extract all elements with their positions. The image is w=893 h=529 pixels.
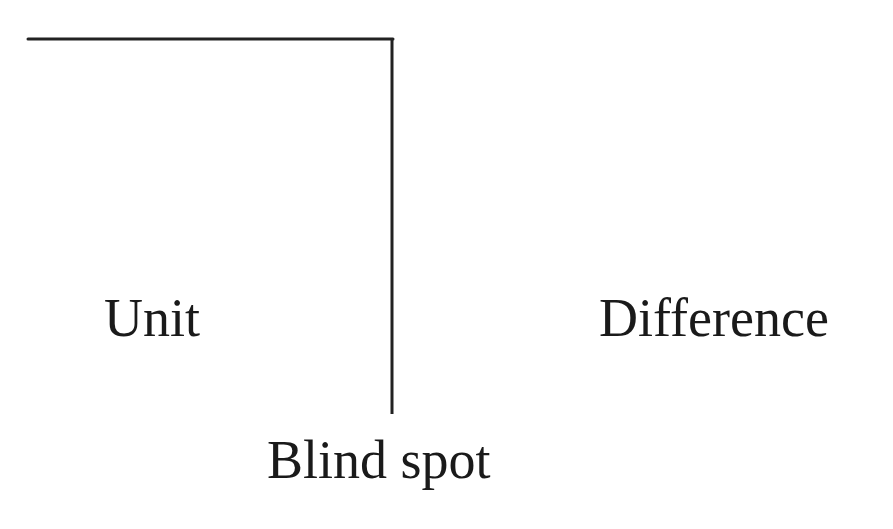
label-unit: Unit — [104, 291, 200, 345]
diagram-canvas: Unit Difference Blind spot — [0, 0, 893, 529]
label-difference: Difference — [599, 291, 829, 345]
label-blind-spot: Blind spot — [267, 433, 491, 487]
